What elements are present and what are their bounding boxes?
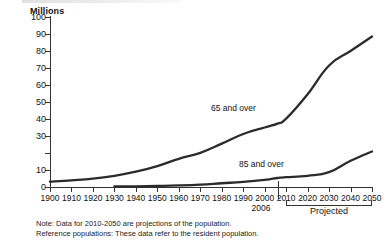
x-tick-1930 xyxy=(114,187,115,192)
series-label-65-and-over: 65 and over xyxy=(211,103,256,113)
y-axis-ticks xyxy=(0,17,50,187)
x-axis-label-2020: 2020 xyxy=(298,193,317,203)
x-tick-1970 xyxy=(200,187,201,192)
x-tick-1900 xyxy=(50,187,51,192)
top-edge-artifact xyxy=(22,0,182,3)
x-axis-label-1940: 1940 xyxy=(126,193,145,203)
x-axis-label-2040: 2040 xyxy=(341,193,360,203)
series-lines xyxy=(50,17,372,187)
footnote-line-2: Reference populations: These data refer … xyxy=(36,229,376,239)
x-tick-1960 xyxy=(179,187,180,192)
x-axis-label-2030: 2030 xyxy=(320,193,339,203)
x-tick-1920 xyxy=(93,187,94,192)
x-axis-label-1990: 1990 xyxy=(234,193,253,203)
x-axis-label-2000: 2000 xyxy=(255,193,274,203)
footnote-line-1: Note: Data for 2010-2050 are projections… xyxy=(36,219,376,229)
x-tick-1940 xyxy=(136,187,137,192)
x-axis-label-1930: 1930 xyxy=(105,193,124,203)
x-tick-2040 xyxy=(351,187,352,192)
x-tick-1990 xyxy=(243,187,244,192)
x-axis-label-1970: 1970 xyxy=(191,193,210,203)
x-tick-2030 xyxy=(329,187,330,192)
year-2006-divider xyxy=(278,181,279,199)
x-axis-label-1910: 1910 xyxy=(62,193,81,203)
x-tick-1980 xyxy=(222,187,223,192)
x-tick-2000 xyxy=(265,187,266,192)
series-label-85-and-over: 85 and over xyxy=(239,159,284,169)
x-tick-1950 xyxy=(157,187,158,192)
x-tick-2010 xyxy=(286,187,287,192)
x-axis-label-1960: 1960 xyxy=(169,193,188,203)
x-axis-label-1900: 1900 xyxy=(41,193,60,203)
x-tick-2020 xyxy=(308,187,309,192)
chart-canvas: Millions 10090807060504030100 1900191019… xyxy=(0,0,387,242)
x-axis-line xyxy=(50,187,373,188)
footnotes: Note: Data for 2010-2050 are projections… xyxy=(36,219,376,238)
x-tick-2050 xyxy=(372,187,373,192)
x-tick-1910 xyxy=(71,187,72,192)
year-2006-label: 2006 xyxy=(252,203,271,213)
x-axis-label-1980: 1980 xyxy=(212,193,231,203)
projected-label: Projected xyxy=(310,206,348,216)
x-axis-label-1950: 1950 xyxy=(148,193,167,203)
projected-bracket-right-tick xyxy=(371,200,372,206)
x-axis-label-1920: 1920 xyxy=(83,193,102,203)
